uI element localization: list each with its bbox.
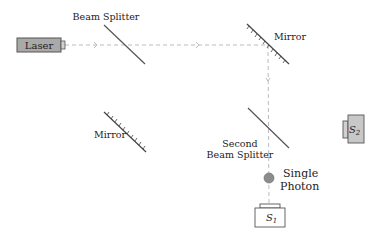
detector-s1: S1 — [255, 204, 285, 227]
single-photon: Single Photon — [264, 167, 319, 193]
detector-s2: S2 — [343, 115, 364, 143]
mirror-top: Mirror — [247, 24, 307, 64]
photon-label-1: Single — [283, 167, 318, 180]
beam-path — [65, 45, 269, 205]
mirror-top-label: Mirror — [274, 31, 307, 42]
mirror-bottom-label: Mirror — [94, 129, 127, 140]
mirror-bottom: Mirror — [94, 112, 146, 152]
second-splitter-label-1: Second — [222, 138, 257, 149]
second-beam-splitter: Second Beam Splitter — [207, 108, 289, 160]
second-splitter-label-2: Beam Splitter — [207, 149, 274, 160]
interferometer-diagram: Laser Beam Splitter Mirror — [0, 0, 382, 237]
photon-label-2: Photon — [280, 180, 319, 193]
beam-arrows — [94, 42, 270, 81]
beam-splitter-label: Beam Splitter — [73, 11, 140, 22]
laser-label: Laser — [25, 40, 54, 51]
beam-splitter: Beam Splitter — [73, 11, 145, 64]
laser: Laser — [17, 38, 65, 52]
